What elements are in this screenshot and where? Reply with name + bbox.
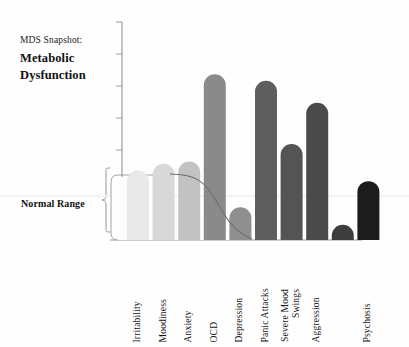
x-axis-tick-label: Anxiety — [183, 310, 194, 342]
x-axis-tick-label: Aggression — [311, 297, 322, 342]
bar — [255, 81, 277, 240]
bar — [153, 164, 175, 240]
bar — [178, 162, 200, 240]
bar — [127, 170, 149, 240]
bar — [357, 181, 379, 240]
x-axis-tick-label: Panic Attacks — [260, 288, 271, 342]
bar — [229, 207, 251, 240]
x-axis-tick-label: Moodiness — [157, 299, 168, 342]
plot-area — [0, 0, 409, 347]
bar — [281, 144, 303, 240]
x-axis-tick-label: Depression — [234, 297, 245, 342]
bar-series — [127, 74, 379, 240]
bar — [332, 225, 354, 240]
chart-canvas: MDS Snapshot: Metabolic Dysfunction Norm… — [0, 0, 409, 347]
bar — [306, 103, 328, 240]
x-axis-tick-label: Irritability — [132, 301, 143, 342]
x-axis-tick-label: OCD — [208, 321, 219, 342]
x-axis-tick-label: Psychosis — [362, 303, 373, 342]
x-axis-tick-label: Severe Mood Swings — [280, 289, 301, 342]
bar — [204, 74, 226, 240]
